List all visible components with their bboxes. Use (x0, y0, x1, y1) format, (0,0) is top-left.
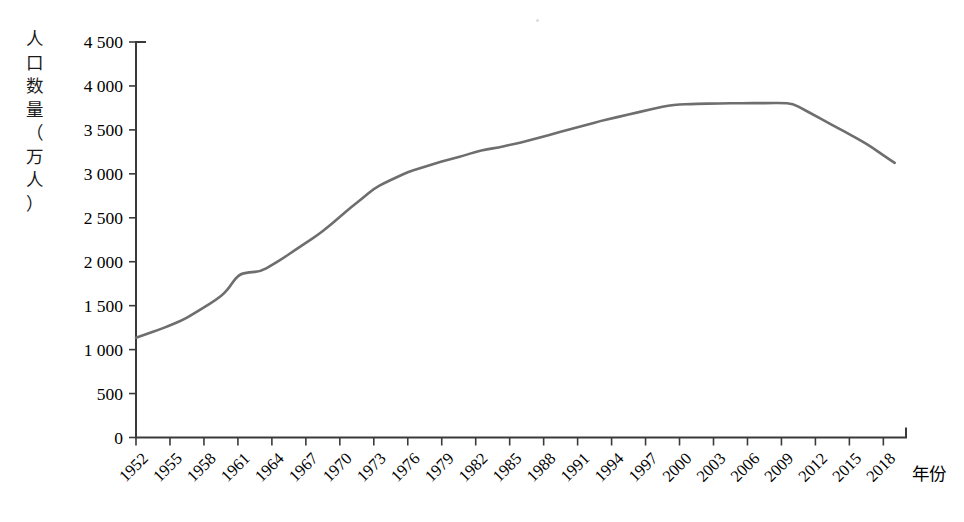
axis-spine (136, 42, 906, 438)
x-axis-ticks (136, 438, 883, 446)
x-axis-tick-label: 1982 (455, 449, 492, 486)
x-axis-title: 年份 (912, 464, 946, 484)
y-axis-tick-label: 3 500 (84, 120, 124, 140)
x-axis-tick-labels: 1952195519581961196419671970197319761979… (115, 449, 899, 486)
x-axis-tick-label: 1994 (591, 449, 628, 486)
x-axis-tick-label: 1988 (523, 449, 560, 486)
y-axis-tick-label: 2 000 (84, 252, 124, 272)
x-axis-tick-label: 1955 (149, 449, 186, 486)
x-axis-tick-label: 1967 (285, 449, 322, 486)
series-line-population (136, 103, 895, 338)
x-axis-tick-label: 1961 (217, 449, 254, 486)
x-axis-tick-label: 1970 (319, 449, 356, 486)
chart-canvas: 05001 0001 5002 0002 5003 0003 5004 0004… (0, 0, 964, 522)
population-line-chart: 人口数量（万人） 05001 0001 5002 0002 5003 0003 … (0, 0, 964, 522)
y-axis-tick-label: 1 500 (84, 296, 124, 316)
x-axis-tick-label: 1964 (251, 449, 288, 486)
y-axis-title-char: 万 (22, 146, 46, 170)
y-axis-title-char: 人 (22, 169, 46, 193)
y-axis-tick-label: 2 500 (84, 208, 124, 228)
y-axis-ticks (129, 42, 136, 438)
x-axis-tick-label: 1979 (421, 449, 458, 486)
x-axis-tick-label: 2015 (828, 449, 865, 486)
y-axis-tick-label: 4 000 (84, 76, 124, 96)
x-axis-tick-label: 1973 (353, 449, 390, 486)
x-axis-tick-label: 2018 (862, 449, 899, 486)
y-axis-title-char: 量 (22, 99, 46, 123)
x-axis-tick-label: 1991 (557, 449, 594, 486)
x-axis-tick-label: 1997 (625, 449, 662, 486)
x-axis-tick-label: 2012 (794, 449, 831, 486)
y-axis-tick-label: 0 (114, 428, 123, 448)
y-axis-title-char: 口 (22, 52, 46, 76)
y-axis-tick-label: 3 000 (84, 164, 124, 184)
y-axis-tick-label: 1 000 (84, 340, 124, 360)
x-axis-tick-label: 2006 (727, 449, 764, 486)
y-axis-title-char: 人 (22, 28, 46, 52)
y-axis-title-char: ） (22, 193, 46, 217)
x-axis-tick-label: 1985 (489, 449, 526, 486)
y-axis-tick-label: 4 500 (84, 32, 124, 52)
x-axis-tick-label: 2009 (761, 449, 798, 486)
x-axis-tick-label: 1952 (115, 449, 152, 486)
y-axis-title: 人口数量（万人） (22, 28, 46, 216)
y-axis-title-char: （ (22, 122, 46, 146)
scan-artifact (536, 19, 539, 22)
x-axis-tick-label: 2003 (693, 449, 730, 486)
x-axis-tick-label: 1958 (183, 449, 220, 486)
x-axis-tick-label: 1976 (387, 449, 424, 486)
y-axis-tick-labels: 05001 0001 5002 0002 5003 0003 5004 0004… (84, 32, 124, 448)
x-axis-tick-label: 2000 (659, 449, 696, 486)
y-axis-tick-label: 500 (97, 384, 124, 404)
y-axis-title-char: 数 (22, 75, 46, 99)
